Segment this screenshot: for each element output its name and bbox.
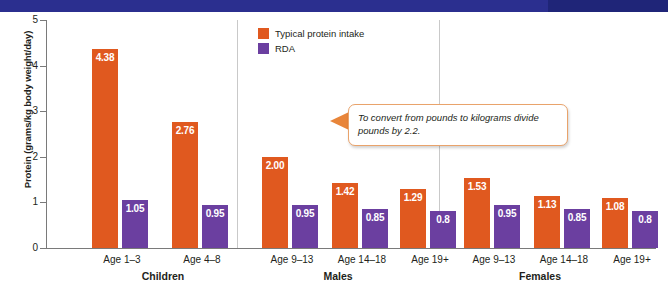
- bar-value-intake-males-age-14-18: 1.42: [332, 186, 358, 197]
- bar-rda-males-age-19-plus[interactable]: 0.8: [430, 211, 456, 248]
- bar-rda-males-age-14-18[interactable]: 0.85: [362, 209, 388, 248]
- bar-value-rda-children-age-4-8: 0.95: [202, 208, 228, 219]
- panel-label-children: Children: [73, 270, 253, 282]
- legend-swatch-rda: [258, 43, 269, 54]
- y-tick-label-3: 3: [22, 105, 38, 116]
- bar-value-rda-males-age-9-13: 0.95: [292, 208, 318, 219]
- x-tick-label-children-age-4-8: Age 4–8: [157, 254, 247, 265]
- chart-legend: Typical protein intake RDA: [258, 28, 364, 58]
- bar-value-intake-children-age-4-8: 2.76: [172, 125, 198, 136]
- bar-value-intake-children-age-1-3: 4.38: [92, 52, 118, 63]
- legend-label-rda: RDA: [275, 43, 295, 54]
- legend-item-rda: RDA: [258, 43, 364, 54]
- legend-label-typical-protein-intake: Typical protein intake: [275, 28, 364, 39]
- bar-rda-females-age-9-13[interactable]: 0.95: [494, 205, 520, 248]
- y-tick-label-2: 2: [22, 151, 38, 162]
- bar-rda-males-age-9-13[interactable]: 0.95: [292, 205, 318, 248]
- bar-value-rda-females-age-19-plus: 0.8: [632, 214, 658, 225]
- y-tick-label-1: 1: [22, 196, 38, 207]
- bar-value-intake-females-age-14-18: 1.13: [534, 199, 560, 210]
- y-tick-0: [40, 248, 46, 249]
- bar-rda-children-age-4-8[interactable]: 0.95: [202, 205, 228, 248]
- bar-intake-females-age-19-plus[interactable]: 1.08: [602, 198, 628, 248]
- bar-intake-females-age-9-13[interactable]: 1.53: [464, 178, 490, 248]
- y-tick-5: [40, 20, 46, 21]
- top-banner-bar: [0, 0, 668, 12]
- bar-rda-females-age-14-18[interactable]: 0.85: [564, 209, 590, 248]
- bar-intake-males-age-14-18[interactable]: 1.42: [332, 183, 358, 248]
- y-tick-label-4: 4: [22, 60, 38, 71]
- y-tick-1: [40, 202, 46, 203]
- bar-value-intake-males-age-19-plus: 1.29: [400, 192, 426, 203]
- bar-rda-females-age-19-plus[interactable]: 0.8: [632, 211, 658, 248]
- bar-rda-children-age-1-3[interactable]: 1.05: [122, 200, 148, 248]
- x-tick-label-children-age-1-3: Age 1–3: [77, 254, 167, 265]
- y-tick-label-5: 5: [22, 14, 38, 25]
- x-tick-label-females-age-19-plus: Age 19+: [587, 254, 668, 265]
- bar-intake-males-age-9-13[interactable]: 2.00: [262, 157, 288, 248]
- x-axis: [46, 248, 656, 249]
- bar-value-intake-males-age-9-13: 2.00: [262, 160, 288, 171]
- bar-group-children-age-4-8: 2.76 0.95: [162, 20, 252, 248]
- legend-item-typical-protein-intake: Typical protein intake: [258, 28, 364, 39]
- y-tick-3: [40, 111, 46, 112]
- y-axis: [46, 20, 47, 248]
- y-tick-4: [40, 66, 46, 67]
- bar-value-rda-males-age-14-18: 0.85: [362, 212, 388, 223]
- y-tick-label-0: 0: [22, 242, 38, 253]
- conversion-callout: To convert from pounds to kilograms divi…: [348, 104, 568, 146]
- bar-value-intake-females-age-9-13: 1.53: [464, 181, 490, 192]
- bar-intake-females-age-14-18[interactable]: 1.13: [534, 196, 560, 248]
- bar-value-rda-children-age-1-3: 1.05: [122, 203, 148, 214]
- bar-intake-children-age-4-8[interactable]: 2.76: [172, 122, 198, 248]
- bar-value-rda-males-age-19-plus: 0.8: [430, 214, 456, 225]
- panel-label-males: Males: [238, 270, 438, 282]
- bar-group-females-age-19-plus: 1.08 0.8: [592, 20, 668, 248]
- bar-intake-children-age-1-3[interactable]: 4.38: [92, 49, 118, 248]
- bar-value-rda-females-age-9-13: 0.95: [494, 208, 520, 219]
- legend-swatch-typical-protein-intake: [258, 28, 269, 39]
- bar-intake-males-age-19-plus[interactable]: 1.29: [400, 189, 426, 248]
- bar-value-intake-females-age-19-plus: 1.08: [602, 201, 628, 212]
- bar-group-children-age-1-3: 4.38 1.05: [82, 20, 172, 248]
- bar-value-rda-females-age-14-18: 0.85: [564, 212, 590, 223]
- top-banner-accent: [548, 0, 668, 12]
- y-tick-2: [40, 157, 46, 158]
- panel-label-females: Females: [440, 270, 640, 282]
- protein-intake-bar-chart: Protein (grams/kg body weight/day) 0 1 2…: [0, 12, 668, 294]
- callout-arrow-icon: [330, 112, 349, 130]
